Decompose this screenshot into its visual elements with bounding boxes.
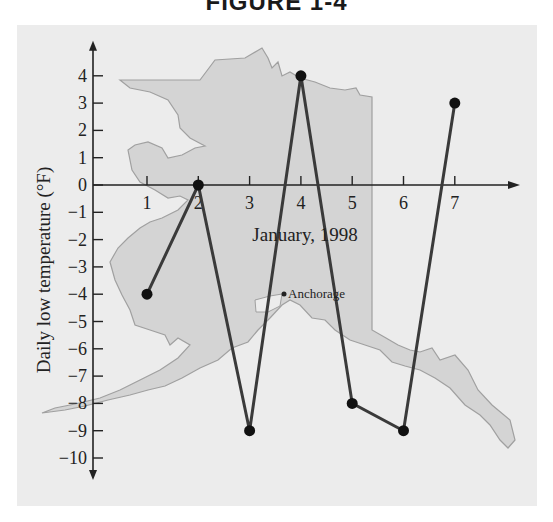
x-tick-label: 4 — [296, 193, 305, 213]
y-tick-label: 2 — [78, 120, 87, 140]
y-tick-label: −1 — [68, 202, 87, 222]
alaska-map-shape — [42, 48, 515, 448]
anchorage-label: Anchorage — [288, 286, 345, 301]
anchorage-marker — [282, 292, 287, 297]
x-tick-label: 1 — [143, 193, 152, 213]
y-tick-label: −3 — [68, 257, 87, 277]
y-tick-label: −5 — [68, 312, 87, 332]
x-tick-label: 7 — [450, 193, 459, 213]
x-tick-label: 5 — [348, 193, 357, 213]
y-axis-arrow-down-icon — [89, 470, 97, 480]
data-point — [398, 425, 409, 436]
y-axis-title: Daily low temperature (°F) — [33, 167, 55, 374]
data-point — [244, 425, 255, 436]
data-point — [295, 70, 306, 81]
line-chart: 43210−1−2−3−4−5−6−7−8−9−101234567 Anchor… — [0, 0, 553, 522]
y-tick-label: −9 — [68, 421, 87, 441]
y-tick-label: 1 — [78, 148, 87, 168]
x-tick-label: 3 — [245, 193, 254, 213]
y-tick-label: 4 — [78, 66, 87, 86]
y-tick-label: 0 — [78, 175, 87, 195]
data-point — [347, 398, 358, 409]
y-tick-label: −6 — [68, 339, 87, 359]
data-point — [449, 98, 460, 109]
data-point — [193, 180, 204, 191]
y-tick-label: −7 — [68, 366, 87, 386]
y-tick-label: −8 — [68, 393, 87, 413]
x-tick-label: 6 — [399, 193, 408, 213]
x-axis-title: January, 1998 — [252, 224, 357, 245]
y-tick-label: −2 — [68, 230, 87, 250]
data-point — [142, 289, 153, 300]
x-axis-arrow-right-icon — [508, 181, 520, 189]
y-tick-label: 3 — [78, 93, 87, 113]
y-tick-label: −4 — [68, 284, 87, 304]
y-axis-arrow-up-icon — [89, 41, 97, 51]
y-tick-label: −10 — [59, 448, 87, 468]
